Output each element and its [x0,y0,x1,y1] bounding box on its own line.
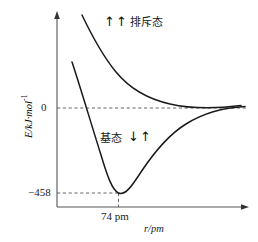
y-tick-label-minimum: −458 [28,187,51,198]
x-axis-title: r/pm [144,224,164,235]
y-axis-title-exponent: -1 [20,95,29,101]
y-axis-title-text: E/kJ·mol [23,101,34,138]
ground-state-spin-arrows-icon: ↓↑ [128,130,152,143]
energy-curve-figure: E/kJ·mol-1 0 −458 74 pm r/pm ↑↑ 排斥态 基态 ↓… [0,0,258,242]
ground-state-label: 基态 [100,133,122,144]
y-axis [54,11,60,207]
x-axis [57,204,249,210]
x-tick-label-bond-length: 74 pm [101,211,129,222]
y-axis-title-wrap: E/kJ·mol-1 [6,66,22,138]
repulsive-state-label: 排斥态 [130,17,163,28]
y-axis-title: E/kJ·mol-1 [20,95,34,138]
ground-state-curve [72,62,245,194]
repulsive-state-spin-arrows-icon: ↑↑ [104,15,128,28]
plot-area [0,0,258,242]
y-tick-label-zero: 0 [41,102,47,113]
